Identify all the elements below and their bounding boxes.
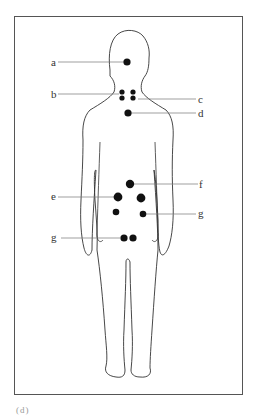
body-outline-diagram [0, 0, 255, 417]
dot-c-1 [130, 89, 135, 94]
dot-small-left [113, 209, 120, 216]
dot-a [123, 58, 130, 65]
label-e: e [51, 191, 56, 202]
dot-g2-2 [129, 234, 136, 241]
diagram-stage: a b c d f e g g (d) [0, 0, 255, 417]
dot-e [114, 193, 123, 202]
dot-d [124, 109, 131, 116]
left-arm-inner-line [97, 142, 103, 242]
label-b: b [51, 89, 57, 100]
dot-f [126, 180, 134, 188]
label-a: a [51, 57, 56, 68]
dot-e-right [137, 194, 146, 203]
label-c: c [198, 94, 203, 105]
leader-lines [58, 62, 198, 238]
dot-b-2 [119, 95, 124, 100]
dot-c-2 [130, 95, 135, 100]
label-g-left: g [51, 232, 57, 243]
dot-g2-1 [120, 234, 127, 241]
figure-caption-fragment: (d) [16, 405, 30, 415]
label-g-right: g [198, 208, 204, 219]
dot-g [140, 211, 147, 218]
body-outline [81, 30, 174, 377]
label-f: f [199, 179, 203, 190]
label-d: d [198, 108, 204, 119]
dot-b-1 [119, 89, 124, 94]
